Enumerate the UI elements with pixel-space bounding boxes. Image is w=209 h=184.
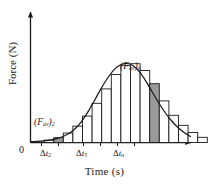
riemann-bar-shaded [150,84,160,143]
fav-n-label: (Fav)n [120,62,141,72]
force-time-figure: Force (N) Time (s) 0 (Fav)n (Fav)2 Δt2 Δ… [0,0,209,184]
impulse-plot [0,0,209,184]
riemann-bar [131,64,141,143]
t2-subscript: 2 [48,152,51,158]
fav-2-label: (Fav)2 [34,118,55,128]
riemann-bar [83,116,93,142]
riemann-bar [111,75,121,143]
fav-2-base: (F [34,117,43,127]
fav-n-base: (F [120,61,129,71]
riemann-bars [44,64,207,143]
riemann-bar [198,137,208,142]
riemann-bar [92,103,102,142]
x-axis-label: Time (s) [0,166,209,177]
y-axis-label: Force (N) [7,29,18,99]
fav-2-sub-index: 2 [52,121,55,127]
fav-n-sub-index: n [138,65,141,71]
riemann-bar [121,66,131,143]
origin-label: 0 [19,145,24,155]
tn-subscript: n [121,152,124,158]
tick-label-delta-t5: Δt5 [76,148,87,158]
riemann-bar [188,133,198,143]
riemann-bar [102,89,112,143]
t5-subscript: 5 [84,152,87,158]
tick-label-delta-tn: Δtn [113,148,124,158]
riemann-bar [140,71,150,143]
tick-label-delta-t2: Δt2 [40,148,51,158]
